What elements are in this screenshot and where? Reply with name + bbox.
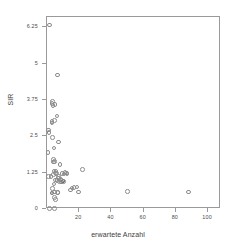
y-tick-label: 6.25 bbox=[27, 23, 38, 29]
x-tick-label: 60 bbox=[139, 214, 145, 220]
data-point bbox=[186, 190, 191, 195]
y-tick-mark bbox=[42, 63, 46, 64]
x-tick-mark bbox=[207, 208, 208, 212]
data-point bbox=[125, 189, 130, 194]
plot-area-frame bbox=[46, 16, 220, 208]
data-point bbox=[47, 23, 52, 28]
data-point bbox=[52, 118, 57, 123]
y-tick-mark bbox=[42, 26, 46, 27]
data-point bbox=[53, 102, 58, 107]
data-point bbox=[55, 114, 60, 119]
y-tick-mark bbox=[42, 208, 46, 209]
y-axis-title: SIR bbox=[7, 94, 14, 106]
y-tick-label: 1.25 bbox=[27, 169, 38, 175]
data-point bbox=[50, 135, 55, 140]
data-point bbox=[52, 146, 57, 151]
y-tick-label: 3.75 bbox=[27, 96, 38, 102]
data-point bbox=[55, 73, 60, 78]
x-tick-label: 80 bbox=[172, 214, 178, 220]
data-point bbox=[46, 150, 51, 155]
y-tick-mark bbox=[42, 135, 46, 136]
data-points-layer bbox=[47, 17, 219, 207]
data-point bbox=[75, 185, 80, 190]
data-point bbox=[58, 162, 63, 167]
x-tick-mark bbox=[110, 208, 111, 212]
data-point bbox=[80, 167, 85, 172]
x-tick-label: 40 bbox=[107, 214, 113, 220]
x-tick-mark bbox=[175, 208, 176, 212]
x-axis-title: erwartete Anzahl bbox=[0, 231, 236, 238]
data-point bbox=[56, 190, 61, 195]
x-tick-mark bbox=[143, 208, 144, 212]
y-tick-mark bbox=[42, 172, 46, 173]
x-tick-label: 20 bbox=[75, 214, 81, 220]
y-tick-label: 2.5 bbox=[30, 132, 38, 138]
x-tick-label: 100 bbox=[202, 214, 212, 220]
data-point bbox=[52, 159, 57, 164]
scatter-plot-figure: 01.252.53.7556.25 20406080100 SIR erwart… bbox=[0, 0, 236, 251]
y-tick-mark bbox=[42, 99, 46, 100]
data-point bbox=[56, 140, 61, 145]
data-point bbox=[52, 206, 57, 211]
y-tick-label: 5 bbox=[35, 60, 38, 66]
x-tick-mark bbox=[78, 208, 79, 212]
data-point bbox=[65, 172, 70, 177]
data-point bbox=[61, 179, 66, 184]
y-tick-label: 0 bbox=[35, 205, 38, 211]
data-point bbox=[47, 130, 52, 135]
data-point bbox=[76, 190, 81, 195]
data-point bbox=[53, 197, 58, 202]
